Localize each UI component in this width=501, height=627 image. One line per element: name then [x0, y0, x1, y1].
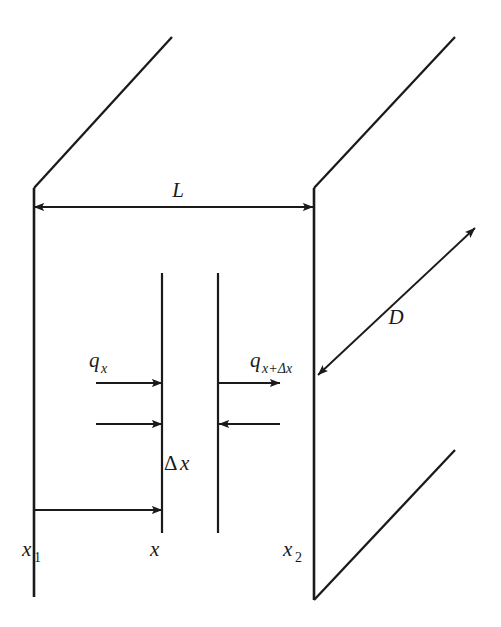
position-left-label: x 1 — [21, 537, 41, 565]
heat-flux-in-subscript: x — [100, 361, 108, 376]
heat-flux-in-label: q x — [89, 348, 108, 376]
control-volume-faces — [162, 273, 218, 533]
bottom-right-perspective-edge — [314, 450, 455, 600]
depth-label: D — [387, 305, 403, 329]
top-left-perspective-edge — [34, 37, 172, 188]
length-label: L — [171, 178, 184, 202]
heat-flux-out-subscript: x+Δx — [261, 361, 293, 376]
heat-flux-out-arrows — [219, 383, 280, 424]
top-right-perspective-edge — [314, 37, 455, 188]
thickness-variable-symbol: x — [179, 451, 190, 475]
thickness-label: Δ x — [164, 451, 190, 475]
position-right-symbol: x — [282, 537, 293, 561]
control-volume-diagram: L D q x q x+Δx Δ x x 1 x x 2 — [0, 0, 501, 627]
position-right-subscript: 2 — [295, 550, 302, 565]
position-mid-label: x — [149, 537, 160, 561]
diagram-canvas: L D q x q x+Δx Δ x x 1 x x 2 — [0, 0, 501, 627]
position-right-label: x 2 — [282, 537, 302, 565]
depth-dimension-line — [318, 228, 475, 375]
heat-flux-in-arrows — [96, 383, 162, 424]
heat-flux-out-label: q x+Δx — [250, 348, 293, 376]
heat-flux-in-symbol: q — [89, 348, 100, 372]
thickness-delta-symbol: Δ — [164, 451, 178, 475]
depth-dimension-arrow — [318, 228, 475, 375]
position-left-symbol: x — [21, 537, 32, 561]
position-left-subscript: 1 — [34, 550, 41, 565]
heat-flux-out-symbol: q — [250, 348, 261, 372]
